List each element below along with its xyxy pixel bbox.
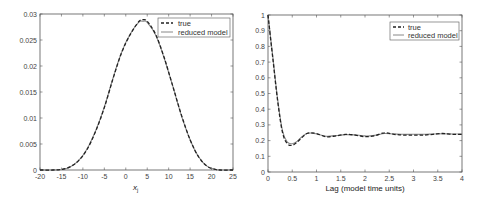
- y-tick-label: 0: [33, 167, 37, 174]
- x-tick-label: 3.5: [433, 175, 443, 182]
- left-legend-model: reduced model: [178, 28, 228, 37]
- right-chart: 00.511.522.533.5400.10.20.30.40.50.60.70…: [255, 12, 464, 194]
- x-tick-label: -5: [101, 173, 107, 180]
- left-chart: -20-15-10-5051015202500.0050.010.0150.02…: [19, 11, 237, 194]
- y-tick-label: 0.1: [255, 153, 265, 160]
- y-tick-label: 1: [261, 12, 265, 19]
- x-tick-label: 2: [363, 175, 367, 182]
- x-tick-label: 2.5: [384, 175, 394, 182]
- y-tick-label: 0.5: [255, 90, 265, 97]
- x-tick-label: 20: [208, 173, 216, 180]
- y-tick-label: 0.7: [255, 59, 265, 66]
- x-tick-label: 1: [315, 175, 319, 182]
- y-tick-label: 0.015: [19, 89, 37, 96]
- x-tick-label: 0: [266, 175, 270, 182]
- y-tick-label: 0.6: [255, 74, 265, 81]
- left-plot-area: [40, 14, 233, 170]
- y-tick-label: 0.3: [255, 121, 265, 128]
- x-tick-label: 0: [124, 173, 128, 180]
- chart-figure: -20-15-10-5051015202500.0050.010.0150.02…: [0, 0, 483, 202]
- y-tick-label: 0.2: [255, 137, 265, 144]
- x-tick-label: -10: [78, 173, 88, 180]
- y-tick-label: 0.025: [19, 37, 37, 44]
- y-tick-label: 0.8: [255, 43, 265, 50]
- x-tick-label: 4: [460, 175, 464, 182]
- x-tick-label: 5: [145, 173, 149, 180]
- right-x-label: Lag (model time units): [325, 184, 404, 193]
- x-tick-label: -20: [35, 173, 45, 180]
- x-tick-label: 1.5: [336, 175, 346, 182]
- y-tick-label: 0.005: [19, 141, 37, 148]
- left-legend: true reduced model: [158, 18, 230, 37]
- y-tick-label: 0.01: [23, 115, 37, 122]
- x-tick-label: -15: [56, 173, 66, 180]
- x-tick-label: 15: [186, 173, 194, 180]
- y-tick-label: 0.03: [23, 11, 37, 18]
- left-legend-true: true: [178, 19, 191, 28]
- y-tick-label: 0.02: [23, 63, 37, 70]
- y-tick-label: 0: [261, 169, 265, 176]
- x-tick-label: 25: [229, 173, 237, 180]
- x-tick-label: 10: [165, 173, 173, 180]
- y-tick-label: 0.9: [255, 27, 265, 34]
- right-legend-model: reduced model: [408, 31, 458, 40]
- x-tick-label: 0.5: [287, 175, 297, 182]
- y-tick-label: 0.4: [255, 106, 265, 113]
- left-x-label: xj: [132, 183, 138, 193]
- right-legend: true reduced model: [390, 22, 459, 40]
- x-tick-label: 3: [412, 175, 416, 182]
